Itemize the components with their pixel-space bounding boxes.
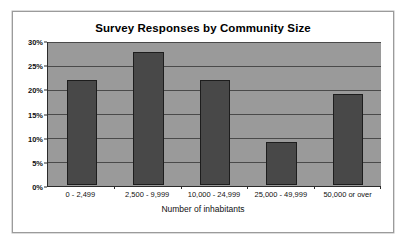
y-axis-tick-mark: [44, 138, 47, 139]
chart-title: Survey Responses by Community Size: [13, 22, 393, 34]
y-axis-tick-label: 5%: [32, 158, 43, 167]
y-axis-tick-label: 15%: [28, 110, 43, 119]
x-axis-tick-label: 10,000 - 24,999: [181, 190, 248, 199]
y-axis-tick-label: 10%: [28, 134, 43, 143]
y-axis-tick-mark: [44, 90, 47, 91]
y-axis-tick-mark: [44, 162, 47, 163]
y-axis-tick-mark: [44, 187, 47, 188]
bar[interactable]: [266, 142, 297, 185]
y-axis-tick-label: 20%: [28, 86, 43, 95]
x-axis-tick-label: 0 - 2,499: [47, 190, 114, 199]
bar[interactable]: [333, 94, 364, 185]
x-axis-tick-mark: [380, 186, 381, 189]
chart-frame: Survey Responses by Community Size 0%5%1…: [12, 11, 394, 233]
bar[interactable]: [67, 80, 98, 185]
plot-area: [47, 42, 381, 187]
bar-slot: [182, 42, 248, 185]
x-axis-tick-labels: 0 - 2,4992,500 - 9,99910,000 - 24,99925,…: [47, 190, 381, 199]
x-axis-title: Number of inhabitants: [13, 204, 393, 214]
bar-slot: [315, 42, 381, 185]
y-axis-tick-mark: [44, 114, 47, 115]
bar[interactable]: [200, 80, 231, 185]
bar-slot: [115, 42, 181, 185]
x-axis-tick-label: 50,000 or over: [314, 190, 381, 199]
plot-wrapper: 0%5%10%15%20%25%30%: [47, 42, 381, 187]
bar-slot: [248, 42, 314, 185]
bar-slot: [49, 42, 115, 185]
y-axis-tick-mark: [44, 66, 47, 67]
y-axis-tick-mark: [44, 42, 47, 43]
x-axis-tick-label: 25,000 - 49,999: [247, 190, 314, 199]
y-axis-tick-label: 0%: [32, 183, 43, 192]
bars-layer: [49, 42, 381, 185]
bar[interactable]: [133, 52, 164, 185]
x-axis-tick-label: 2,500 - 9,999: [114, 190, 181, 199]
y-axis-tick-label: 30%: [28, 38, 43, 47]
y-axis-tick-label: 25%: [28, 62, 43, 71]
